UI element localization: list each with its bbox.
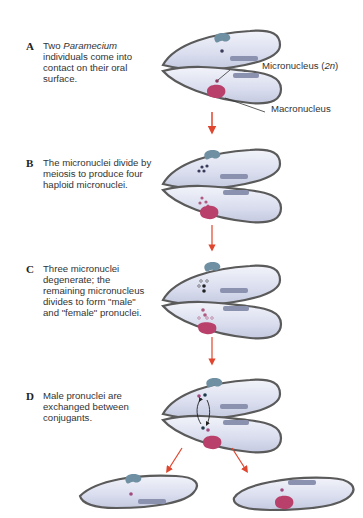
step-letter: A bbox=[26, 40, 34, 52]
step-letter: C bbox=[26, 263, 34, 275]
step-description: Two Paramecium individuals come into con… bbox=[43, 40, 153, 84]
step-description: Male pronuclei are exchanged between con… bbox=[43, 390, 153, 423]
step-letter: B bbox=[26, 157, 33, 169]
cell-pair-c bbox=[163, 262, 281, 338]
cell-pair-d bbox=[163, 378, 281, 452]
step-letter: D bbox=[26, 390, 34, 402]
cell-pair-b bbox=[163, 150, 281, 223]
exconjugant-left bbox=[80, 474, 197, 508]
step-description: The micronuclei divide by meiosis to pro… bbox=[43, 157, 153, 190]
exconjugant-right bbox=[234, 478, 354, 510]
macronucleus-bottom bbox=[207, 85, 225, 98]
step-description: Three micronuclei degenerate; the remain… bbox=[43, 263, 153, 318]
label-macronucleus: Macronucleus bbox=[271, 103, 331, 114]
label-micronucleus: Micronucleus (2n) bbox=[262, 60, 338, 71]
